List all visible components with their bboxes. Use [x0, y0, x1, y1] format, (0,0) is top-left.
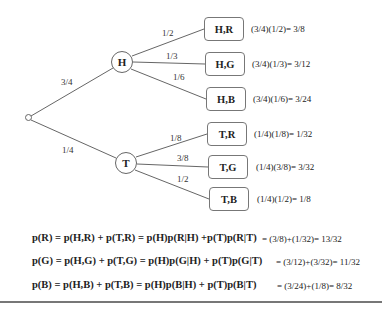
edge-label-t: 1/4	[62, 146, 74, 155]
leaf-tb-label: T,B	[221, 194, 237, 205]
calc-hb: (3/4)(1/6)= 3/24	[253, 95, 311, 104]
formula-r: p(R) = p(H,R) + p(T,R) = p(H)p(R|H) +p(T…	[32, 233, 257, 244]
node-t: T	[115, 152, 137, 174]
horizontal-rule	[0, 301, 382, 303]
formula-b: p(B) = p(H,B) + p(T,B) = p(H)p(B|H) + p(…	[32, 280, 256, 291]
edge-label-tg: 3/8	[177, 154, 189, 163]
result-b: = (3/24)+(1/8)= 8/32	[277, 282, 352, 291]
tree-edges	[0, 0, 382, 220]
leaf-hg-label: H,G	[216, 59, 235, 70]
leaf-hr: H,R	[204, 17, 244, 41]
leaf-tg: T,G	[208, 155, 248, 179]
result-r: = (3/8)+(1/32)= 13/32	[262, 235, 342, 244]
calc-hg: (3/4)(1/3)= 3/12	[252, 60, 310, 69]
formula-g: p(G) = p(H,G) + p(T,G) = p(H)p(G|H) + p(…	[32, 256, 262, 267]
root-node	[25, 114, 32, 121]
leaf-hb-label: H,B	[217, 94, 235, 105]
edge-label-hb: 1/6	[173, 73, 185, 82]
edge-label-hr: 1/2	[162, 29, 174, 38]
node-h-label: H	[118, 56, 127, 68]
leaf-tr: T,R	[207, 122, 247, 146]
edge-label-h: 3/4	[61, 78, 73, 87]
node-h: H	[111, 51, 133, 73]
edge-label-tb: 1/2	[177, 175, 189, 184]
calc-tg: (1/4)(3/8)= 3/32	[256, 163, 314, 172]
leaf-tg-label: T,G	[219, 162, 236, 173]
edge-t-tg	[137, 164, 208, 167]
result-g: = (3/12)+(3/32)= 11/32	[276, 258, 360, 267]
edge-h-hg	[133, 62, 205, 64]
leaf-hb: H,B	[206, 87, 246, 111]
leaf-tb: T,B	[209, 187, 249, 211]
calc-tb: (1/4)(1/2)= 1/8	[257, 195, 311, 204]
edge-root-h	[31, 68, 113, 116]
edge-h-hb	[131, 69, 206, 99]
edge-label-hg: 1/3	[166, 52, 178, 61]
node-t-label: T	[122, 157, 129, 169]
edge-t-tb	[135, 170, 209, 199]
calc-hr: (3/4)(1/2)= 3/8	[251, 25, 305, 34]
calc-tr: (1/4)(1/8)= 1/32	[254, 130, 312, 139]
edge-label-tr: 1/8	[170, 134, 182, 143]
leaf-tr-label: T,R	[219, 129, 235, 140]
leaf-hg: H,G	[205, 52, 245, 76]
leaf-hr-label: H,R	[215, 24, 233, 35]
